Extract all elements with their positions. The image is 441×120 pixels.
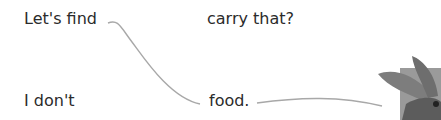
connection-lines xyxy=(0,0,441,120)
rabbit-icon xyxy=(378,52,441,120)
connector-line-food-to-picture xyxy=(257,98,382,106)
rabbit-picture xyxy=(378,52,441,120)
connector-line-lets-find-to-food xyxy=(108,22,200,104)
